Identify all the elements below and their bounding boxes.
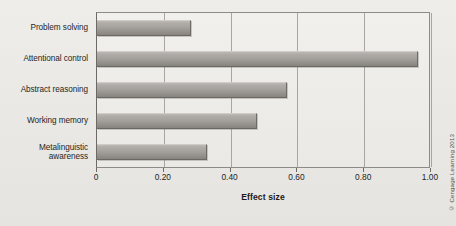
category-label-working-memory: Working memory (4, 106, 92, 137)
category-label-line: Problem solving (31, 23, 89, 33)
x-axis: 00.200.400.600.801.00 (96, 168, 430, 182)
bar[interactable] (97, 82, 287, 98)
bar-series (97, 13, 429, 167)
bar-row (97, 75, 429, 106)
category-label-problem-solving: Problem solving (4, 12, 92, 43)
category-label-metalinguistic-awareness: Metalinguistic awareness (4, 137, 92, 168)
bar[interactable] (97, 20, 191, 36)
category-label-abstract-reasoning: Abstract reasoning (4, 74, 92, 105)
gridline (431, 13, 432, 167)
category-label-line: Abstract reasoning (21, 85, 88, 95)
category-label-line: Metalinguistic (39, 143, 88, 153)
x-tick-label: 0.40 (221, 172, 237, 182)
category-label-line: awareness (39, 152, 88, 162)
category-label-line: Attentional control (23, 54, 88, 64)
chart-figure: Problem solving Attentional control Abst… (0, 0, 456, 226)
category-label-line: Working memory (27, 116, 88, 126)
bar[interactable] (97, 51, 418, 67)
bar[interactable] (97, 113, 257, 129)
category-label-attentional-control: Attentional control (4, 43, 92, 74)
x-tick-label: 0.80 (355, 172, 371, 182)
bar-row (97, 136, 429, 167)
bar-row (97, 13, 429, 44)
bar[interactable] (97, 144, 207, 160)
category-axis-labels: Problem solving Attentional control Abst… (4, 12, 92, 168)
x-axis-title: Effect size (96, 192, 430, 202)
plot-area (96, 12, 430, 168)
x-tick-label: 0 (94, 172, 99, 182)
x-tick-label: 0.20 (155, 172, 171, 182)
x-tick-label: 1.00 (422, 172, 438, 182)
copyright-credit: © Cengage Learning 2013 (448, 134, 455, 212)
bar-row (97, 44, 429, 75)
bar-row (97, 105, 429, 136)
x-tick-label: 0.60 (288, 172, 304, 182)
